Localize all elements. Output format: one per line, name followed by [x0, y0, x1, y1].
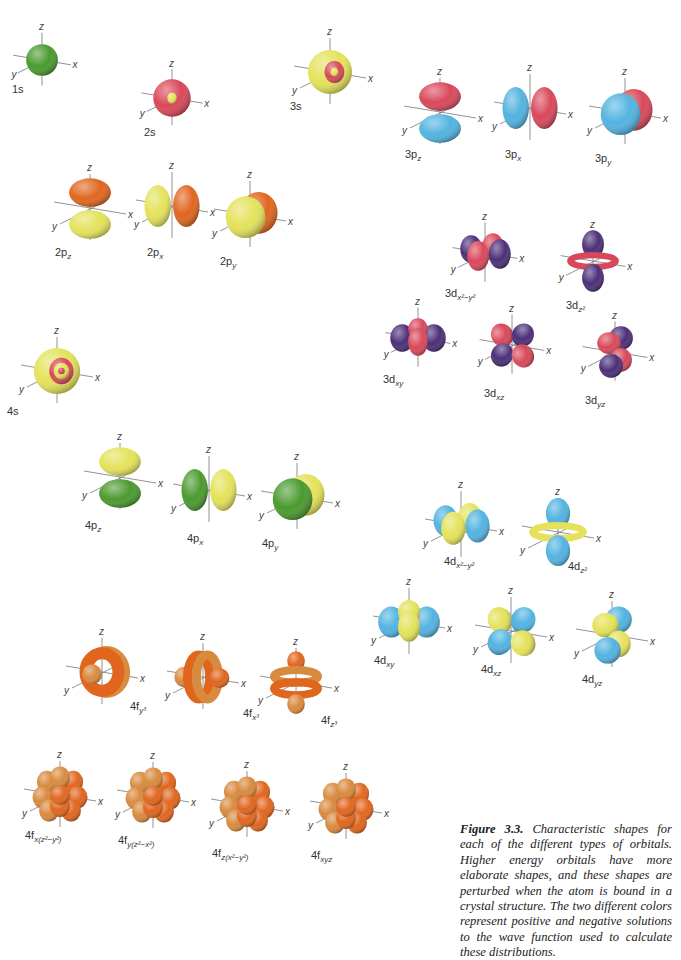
- lobe-negative-shading: [145, 185, 171, 227]
- orbital-label: 2px: [147, 246, 164, 261]
- orbital-label-subscript: x(z²−y²): [33, 835, 62, 844]
- orbital-4dxz: zxy4dxz: [472, 585, 555, 678]
- orbital-label-main: 3d: [445, 287, 457, 299]
- z-axis-label: z: [38, 21, 44, 32]
- orbital-label-subscript: z: [96, 525, 101, 534]
- y-axis-label: y: [450, 264, 457, 275]
- orbital-3px: zxy3px: [491, 62, 574, 163]
- orbital-label: 4fx(z²−y²): [25, 829, 62, 844]
- orbital-4fzx2y2: zxy4fz(x²−y²): [208, 759, 291, 862]
- x-axis-label: x: [648, 352, 655, 363]
- y-axis-label: y: [370, 635, 377, 646]
- lobe-shading: [599, 354, 623, 378]
- lobe-negative-shading: [69, 210, 111, 239]
- orbital-4fz3: zxy4fz³: [257, 636, 340, 729]
- orbital-label: 4dyz: [582, 673, 602, 688]
- z-axis-label: z: [405, 576, 411, 587]
- orbital-label-subscript: x: [198, 538, 204, 547]
- orbital-label-main: 3d: [484, 387, 496, 399]
- orbital-2py: zxy2py: [211, 169, 294, 270]
- lobe-center-shading: [237, 795, 257, 815]
- y-axis-label: y: [257, 695, 264, 706]
- y-axis-label: y: [422, 538, 429, 549]
- z-axis-label: z: [292, 636, 298, 647]
- orbital-label: 4py: [262, 537, 279, 552]
- z-axis-label: z: [53, 325, 59, 336]
- y-axis-label: y: [573, 648, 580, 659]
- orbital-label-subscript: y: [231, 261, 237, 270]
- orbital-label-main: 4s: [7, 405, 19, 417]
- z-axis-label: z: [168, 160, 174, 171]
- orbital-label-subscript: y: [273, 543, 279, 552]
- y-axis-label: y: [580, 363, 587, 374]
- y-axis-label: y: [133, 219, 140, 230]
- orbital-label-main: 4d: [582, 673, 594, 685]
- lobe-center-shading: [143, 786, 163, 806]
- y-axis-label: y: [211, 228, 218, 239]
- orbital-label-main: 2s: [144, 126, 156, 138]
- y-axis-label: y: [519, 545, 526, 556]
- orbital-label: 2pz: [55, 246, 71, 261]
- lobe-negative-shading: [419, 114, 461, 143]
- z-axis-label: z: [149, 750, 155, 761]
- orbital-4px: zxy4px: [170, 444, 253, 547]
- orbital-label: 1s: [12, 83, 24, 95]
- orbital-label: 3dxy: [383, 373, 404, 388]
- orbital-4dz2: zxy4dz²: [519, 486, 602, 575]
- orbital-4dyz: zxy4dyz: [573, 589, 656, 688]
- orbital-label-subscript: y³: [138, 706, 146, 715]
- x-axis-label: x: [595, 533, 602, 544]
- y-axis-label: y: [586, 125, 593, 136]
- x-axis-label: x: [209, 207, 216, 218]
- z-axis-label: z: [481, 211, 487, 222]
- orbital-label-subscript: z³: [329, 720, 337, 729]
- x-axis-label: x: [383, 808, 390, 819]
- x-axis-label: x: [451, 338, 458, 349]
- orbital-label: 3dz²: [566, 299, 585, 314]
- x-axis-label: x: [477, 113, 484, 124]
- orbital-label-subscript: xz: [495, 393, 504, 402]
- orbital-label-main: 4p: [262, 537, 274, 549]
- x-axis-label: x: [284, 806, 291, 817]
- orbital-label-main: 4p: [187, 532, 199, 544]
- z-axis-label: z: [526, 62, 532, 73]
- orbital-label: 4fy(z²−x²): [118, 834, 155, 849]
- lobe-shading: [467, 241, 489, 271]
- y-axis-label: y: [11, 69, 18, 80]
- orbital-3dx2y2: zxy3dx²−y²: [445, 211, 525, 302]
- orbital-3dxz: zxy3dxz: [477, 303, 552, 402]
- z-axis-label: z: [554, 486, 560, 497]
- orbital-label-subscript: x³: [251, 713, 259, 722]
- lobe-shading: [408, 328, 428, 356]
- orbital-label: 4fx³: [243, 707, 259, 722]
- orbital-label: 4dxy: [374, 654, 395, 669]
- z-axis-label: z: [507, 585, 513, 596]
- orbital-label-main: 3s: [290, 100, 302, 112]
- x-axis-label: x: [94, 372, 101, 383]
- orbital-3dxz-axes: [480, 314, 545, 373]
- lobe-shading: [398, 611, 420, 642]
- z-axis-label: z: [243, 759, 249, 770]
- z-axis-label: z: [116, 431, 122, 442]
- orbital-label: 3px: [505, 148, 522, 163]
- orbital-4pz: zxy4pz: [81, 431, 164, 534]
- x-axis-label: x: [333, 683, 340, 694]
- orbital-2pz: zxy2pz: [51, 162, 134, 261]
- x-axis-label: x: [190, 797, 197, 808]
- orbital-3dyz: zxy3dyz: [580, 310, 655, 409]
- x-axis-label: x: [446, 623, 453, 634]
- y-axis-label: y: [114, 809, 121, 820]
- lobe-shading: [465, 510, 489, 543]
- orbital-label: 4dx²−y²: [444, 555, 475, 570]
- orbital-label-main: 3p: [595, 152, 607, 164]
- orbital-label-main: 2p: [147, 246, 159, 258]
- z-axis-label: z: [621, 66, 627, 77]
- orbital-label: 2py: [220, 255, 237, 270]
- orbital-label: 4fz(x²−y²): [212, 847, 249, 862]
- lobe-front-shading: [273, 478, 313, 520]
- lobe-positive-shading: [99, 447, 141, 476]
- lobe-bottom-shading: [287, 694, 305, 714]
- z-axis-label: z: [205, 444, 211, 455]
- orbital-3dz2: zxy3dz²: [558, 219, 633, 314]
- x-axis-label: x: [334, 498, 341, 509]
